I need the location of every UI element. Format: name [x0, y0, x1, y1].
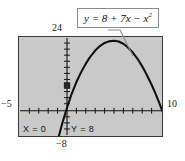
graphing-calculator-figure: 24 −5 10 −8	[0, 0, 185, 161]
equation-callout: y = 8 + 7x − x2	[77, 8, 159, 28]
trace-cursor	[64, 83, 70, 88]
axis-label-ymin: −8	[56, 138, 67, 149]
parabola-curve	[59, 41, 162, 136]
axis-label-xmin: −5	[1, 98, 12, 109]
equation-exponent: 2	[148, 11, 152, 19]
equation-text: y = 8 + 7x − x	[84, 12, 148, 24]
calculator-screen: X = 0 Y = 8	[18, 36, 163, 137]
trace-readout-x: X = 0	[23, 124, 46, 134]
plot-svg	[19, 37, 162, 136]
trace-readout-y: Y = 8	[71, 124, 94, 134]
axis-label-ymax: 24	[52, 22, 62, 33]
axis-label-xmax: 10	[167, 98, 177, 109]
